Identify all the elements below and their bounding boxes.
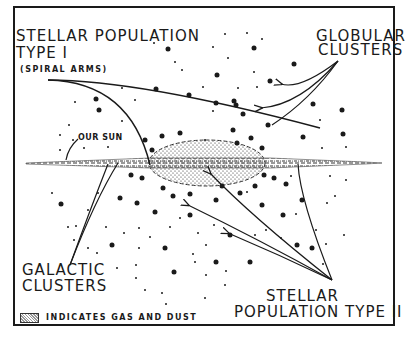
galactic-cluster-pointers bbox=[70, 163, 118, 265]
our-sun-label: OUR SUN bbox=[78, 134, 123, 142]
gas-dust-legend-label: INDICATES GAS AND DUST bbox=[46, 314, 197, 322]
our-sun-pointer bbox=[66, 139, 78, 160]
galactic-bulge bbox=[149, 140, 265, 186]
population-two-label-line1: STELLAR bbox=[266, 289, 339, 304]
population-one-label-line1: STELLAR POPULATION bbox=[16, 29, 200, 44]
population-two-label-line2: POPULATION TYPE II bbox=[234, 305, 403, 320]
spiral-arms-label: (SPIRAL ARMS) bbox=[20, 66, 108, 74]
gas-dust-legend-swatch bbox=[20, 313, 39, 323]
galactic-clusters-label-line1: GALACTIC bbox=[22, 263, 105, 278]
globular-clusters-label-line2: CLUSTERS bbox=[318, 43, 403, 58]
galactic-clusters-label-line2: CLUSTERS bbox=[22, 279, 107, 294]
population-one-label-line2: TYPE I bbox=[16, 46, 68, 61]
